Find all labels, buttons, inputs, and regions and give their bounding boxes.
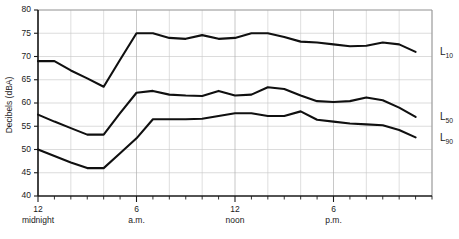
series-line-l50 [38,87,416,134]
y-axis-tick-label: 55 [22,121,32,131]
series-layer [38,33,416,168]
x-axis-tick-label: 6 [134,204,139,214]
y-axis-tick-label: 75 [22,28,32,38]
x-axis-tick-label: 12 [230,204,240,214]
noise-level-chart: 40455055606570758012midnight6a.m.12noon6… [0,0,459,239]
series-label-l50: L50 [440,111,453,124]
y-axis-tick-label: 45 [22,167,32,177]
x-axis-tick-sublabel: p.m. [325,215,342,225]
x-axis-tick-sublabel: noon [226,215,245,225]
y-axis-title: Decibels (dBA) [4,76,14,133]
y-axis-tick-label: 60 [22,97,32,107]
axis-title-layer: Decibels (dBA) [4,76,14,133]
x-axis-tick-sublabel: midnight [22,215,55,225]
chart-canvas: 40455055606570758012midnight6a.m.12noon6… [0,0,459,239]
series-label-l90: L90 [440,132,453,145]
x-axis-tick-label: 12 [33,204,43,214]
x-axis-tick-sublabel: a.m. [128,215,145,225]
y-axis-tick-label: 80 [22,4,32,14]
y-axis-tick-label: 40 [22,190,32,200]
series-line-l10 [38,33,416,86]
series-labels-layer: L10L50L90 [440,46,453,144]
series-line-l90 [38,111,416,168]
y-axis-tick-label: 50 [22,144,32,154]
y-axis-tick-label: 65 [22,74,32,84]
tick-labels-layer: 40455055606570758012midnight6a.m.12noon6… [22,4,342,225]
x-axis-tick-label: 6 [331,204,336,214]
series-label-l10: L10 [440,46,453,59]
y-axis-tick-label: 70 [22,51,32,61]
